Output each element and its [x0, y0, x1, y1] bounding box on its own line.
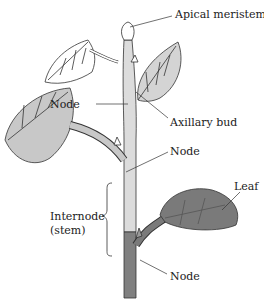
- upper-left-leaf: [45, 40, 118, 83]
- label-apical-meristem: Apical meristem: [175, 8, 264, 21]
- label-leaf: Leaf: [234, 180, 258, 193]
- label-node-lower: Node: [170, 270, 200, 283]
- label-internode-stem: (stem): [50, 224, 86, 237]
- stem-upper: [123, 40, 136, 232]
- plant-diagram: Apical meristem Node Axillary bud Node I…: [0, 0, 264, 306]
- upper-right-leaf: [138, 42, 181, 101]
- axillary-bud-middle: [114, 137, 121, 145]
- label-node-middle: Node: [170, 145, 200, 158]
- apical-bud: [121, 22, 134, 40]
- axillary-bud-lower: [136, 228, 142, 238]
- plant-illustration: [0, 0, 264, 306]
- label-axillary-bud: Axillary bud: [170, 116, 237, 129]
- label-internode: Internode: [50, 210, 105, 223]
- lower-right-leaf: [136, 189, 238, 245]
- label-node-upper: Node: [50, 98, 80, 111]
